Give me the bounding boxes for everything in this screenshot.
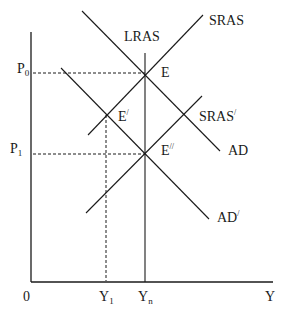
p1-base: P [10,141,18,156]
p1-sub: 1 [18,148,23,158]
p0-label: P0 [17,61,30,78]
yn-sub: n [148,296,153,306]
ad-label: AD [228,143,248,158]
yn-label: Yn [138,289,153,306]
point-e-prime-mark: / [127,108,130,117]
point-e-double-prime-label: E// [161,142,175,158]
y1-base: Y [99,289,109,304]
sras-prime-label: SRAS/ [199,108,237,124]
sras-label: SRAS [209,13,244,28]
ad-prime-mark: / [237,209,240,218]
ad-prime-label: AD/ [217,209,240,225]
lras-label: LRAS [124,29,160,44]
ad-as-diagram: LRAS SRAS SRAS/ AD AD/ E E/ E// P0 P1 0 … [0,0,283,312]
y1-label: Y1 [99,289,114,306]
yn-base: Y [138,289,148,304]
ad-prime-curve [61,68,209,219]
y1-sub: 1 [109,296,114,306]
p1-label: P1 [10,141,22,158]
x-axis-label: Y [265,289,275,304]
point-e-prime-label: E/ [118,108,130,124]
ad-prime-base: AD [217,210,237,225]
point-e-double-prime-mark: // [170,142,175,151]
p0-base: P [17,61,25,76]
sras-prime-base: SRAS [199,109,234,124]
point-e-label: E [161,65,170,80]
origin-label: 0 [23,289,30,304]
point-e-double-prime-base: E [161,143,170,158]
p0-sub: 0 [25,68,30,78]
sras-prime-mark: / [234,108,237,117]
point-e-prime-base: E [118,109,127,124]
